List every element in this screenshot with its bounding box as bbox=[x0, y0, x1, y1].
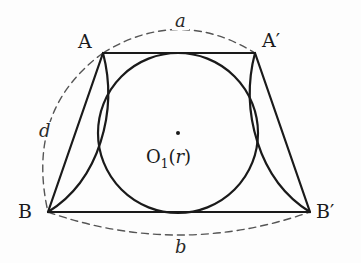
incircle-center-letter: O bbox=[146, 146, 161, 167]
incircle-paren-close: ) bbox=[184, 146, 191, 167]
dashed-arc-a bbox=[103, 30, 255, 54]
geometry-figure: A A′ B B′ a b d O1(r) bbox=[0, 0, 361, 263]
arc-label-a: a bbox=[172, 12, 189, 30]
incircle-radius-letter: r bbox=[175, 146, 184, 167]
arc-label-b: b bbox=[172, 238, 190, 256]
vertex-label-B-prime: B′ bbox=[316, 202, 334, 221]
vertex-label-B: B bbox=[18, 202, 32, 221]
dashed-arc-b bbox=[48, 212, 310, 235]
geometry-canvas bbox=[0, 0, 361, 263]
vertex-label-A: A bbox=[78, 32, 92, 51]
incircle-center-label: O1(r) bbox=[146, 148, 191, 170]
arc-label-d: d bbox=[36, 122, 54, 140]
vertex-label-A-prime: A′ bbox=[262, 31, 280, 50]
circle-center-dot bbox=[176, 131, 180, 135]
